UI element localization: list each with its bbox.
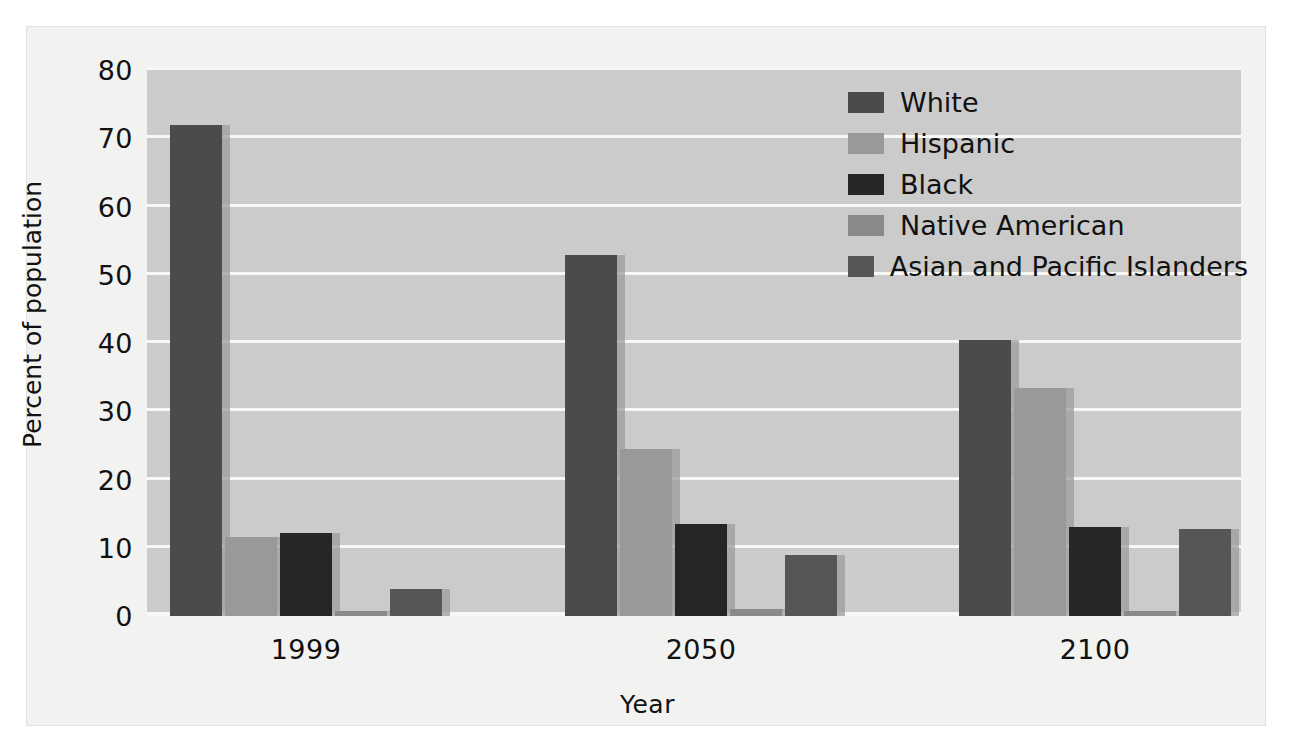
y-tick-label-70: 70 [13, 123, 133, 154]
bar-2050-native-american[interactable] [730, 609, 782, 616]
bar-2050-white[interactable] [565, 255, 617, 616]
bar-2100-native-american[interactable] [1124, 611, 1176, 616]
bar-1999-hispanic[interactable] [225, 537, 277, 616]
bar-2100-hispanic[interactable] [1014, 388, 1066, 616]
x-axis-title: Year [0, 690, 1295, 719]
chart-legend: WhiteHispanicBlackNative AmericanAsian a… [848, 82, 1248, 287]
y-tick-label-30: 30 [13, 396, 133, 427]
legend-swatch-icon [848, 92, 884, 113]
bar-2100-white[interactable] [959, 340, 1011, 616]
y-tick-label-40: 40 [13, 328, 133, 359]
legend-swatch-icon [848, 215, 884, 236]
y-tick-label-80: 80 [13, 55, 133, 86]
bar-1999-white[interactable] [170, 125, 222, 616]
x-tick-label-1999: 1999 [206, 634, 406, 665]
legend-swatch-icon [848, 174, 884, 195]
bar-1999-asian-and-pacific-islanders[interactable] [390, 589, 442, 616]
legend-label: Asian and Pacific Islanders [890, 251, 1248, 282]
legend-item-native-american[interactable]: Native American [848, 205, 1248, 246]
y-tick-label-60: 60 [13, 191, 133, 222]
legend-label: White [900, 87, 979, 118]
legend-swatch-icon [848, 256, 874, 277]
bar-1999-black[interactable] [280, 533, 332, 616]
y-tick-label-50: 50 [13, 259, 133, 290]
bar-2050-hispanic[interactable] [620, 449, 672, 616]
bar-2050-asian-and-pacific-islanders[interactable] [785, 555, 837, 616]
y-tick-label-0: 0 [13, 601, 133, 632]
y-tick-label-20: 20 [13, 464, 133, 495]
bar-2100-asian-and-pacific-islanders[interactable] [1179, 529, 1231, 616]
gridline-80 [147, 67, 1241, 70]
legend-swatch-icon [848, 133, 884, 154]
x-tick-label-2050: 2050 [601, 634, 801, 665]
legend-item-black[interactable]: Black [848, 164, 1248, 205]
y-axis-tick-labels: 01020304050607080 [0, 70, 133, 616]
legend-item-asian-and-pacific-islanders[interactable]: Asian and Pacific Islanders [848, 246, 1248, 287]
gridline-40 [147, 340, 1241, 343]
gridline-20 [147, 477, 1241, 480]
legend-label: Black [900, 169, 973, 200]
legend-label: Hispanic [900, 128, 1015, 159]
bar-2050-black[interactable] [675, 524, 727, 616]
chart-figure: Percent of population 01020304050607080 … [0, 0, 1295, 755]
legend-item-hispanic[interactable]: Hispanic [848, 123, 1248, 164]
bar-2100-black[interactable] [1069, 527, 1121, 616]
legend-item-white[interactable]: White [848, 82, 1248, 123]
y-tick-label-10: 10 [13, 532, 133, 563]
x-tick-label-2100: 2100 [995, 634, 1195, 665]
gridline-30 [147, 408, 1241, 411]
bar-1999-native-american[interactable] [335, 611, 387, 616]
legend-label: Native American [900, 210, 1125, 241]
